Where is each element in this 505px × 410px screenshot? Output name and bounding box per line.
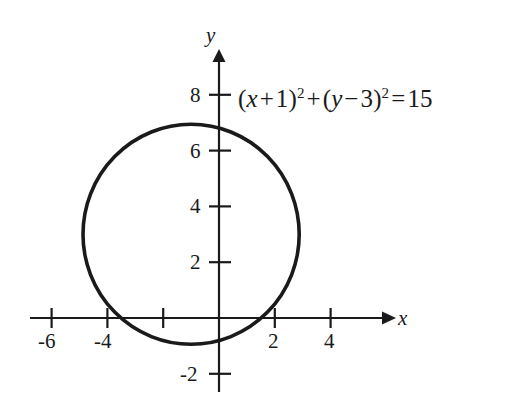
equation-equals-sign: =: [389, 85, 407, 112]
equation-close-paren-2: ): [373, 85, 381, 112]
equation-variable-x: x: [246, 85, 257, 112]
x-tick-label-neg4: -4: [94, 331, 112, 352]
y-axis-label: y: [206, 25, 215, 46]
equation-right-hand-side: 15: [407, 85, 432, 112]
circle-equation-annotation: (x+1)2+(y−3)2=15: [238, 86, 433, 111]
x-tick-label-neg6: -6: [38, 331, 56, 352]
y-axis-arrowhead: [213, 49, 226, 62]
equation-variable-y: y: [331, 85, 342, 112]
y-tick-label-neg2: -2: [180, 364, 198, 385]
y-tick-label-8: 8: [190, 85, 201, 106]
equation-plus-inside: +: [258, 85, 276, 112]
equation-open-paren-2: (: [323, 85, 331, 112]
equation-constant-1: 1: [276, 85, 289, 112]
equation-minus-inside: −: [342, 85, 360, 112]
y-tick-label-6: 6: [190, 141, 201, 162]
coordinate-plane-svg: [0, 0, 505, 410]
circle-graph-figure: -6 -4 2 4 8 6 4 2 -2 x y (x+1)2+(y−3)2=1…: [0, 0, 505, 410]
equation-close-paren-1: ): [288, 85, 296, 112]
y-tick-label-2: 2: [190, 252, 201, 273]
equation-constant-3: 3: [361, 85, 374, 112]
equation-plus-between: +: [305, 85, 323, 112]
x-axis-label: x: [398, 308, 407, 329]
x-tick-label-4: 4: [324, 331, 335, 352]
equation-exponent-1: 2: [297, 85, 305, 101]
x-tick-label-2: 2: [268, 331, 279, 352]
x-axis-arrowhead: [382, 312, 396, 325]
y-tick-label-4: 4: [190, 196, 201, 217]
